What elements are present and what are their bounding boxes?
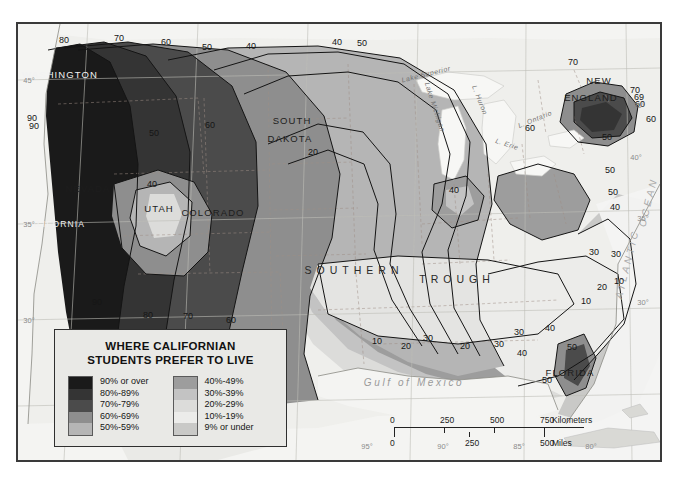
legend-label: 90% or over xyxy=(100,376,149,388)
legend-label: 10%-19% xyxy=(205,411,254,423)
scale-tick-label: 0 xyxy=(390,415,395,425)
legend-swatch xyxy=(174,400,197,412)
scale-tick-label: 500 xyxy=(490,415,504,425)
legend-label: 60%-69% xyxy=(100,411,149,423)
legend-label: 30%-39% xyxy=(205,388,254,400)
scale-unit-km: Kilometers xyxy=(552,415,592,425)
legend-labels-1: 90% or over80%-89%70%-79%60%-69%50%-59% xyxy=(100,376,149,436)
scale-tick-label: 250 xyxy=(440,415,454,425)
scale-bar: 0250500750Kilometers 0250500Miles xyxy=(394,415,584,449)
legend-swatches-2 xyxy=(173,376,198,436)
map-frame: WASHINGTONNEVADAUTAHCOLORADOCALIFORNIASO… xyxy=(16,22,662,462)
legend-swatch xyxy=(69,412,92,424)
legend-title: WHERE CALIFORNIAN STUDENTS PREFER TO LIV… xyxy=(55,339,286,367)
legend-column-1: 90% or over80%-89%70%-79%60%-69%50%-59% xyxy=(68,376,149,436)
legend-swatch xyxy=(69,377,92,389)
legend-label: 20%-29% xyxy=(205,399,254,411)
legend-swatch xyxy=(69,400,92,412)
scale-tick-label: 250 xyxy=(465,438,479,448)
legend-label: 50%-59% xyxy=(100,422,149,434)
legend-swatch xyxy=(69,423,92,435)
legend-label: 9% or under xyxy=(205,422,254,434)
scale-mi-numbers: 0250500Miles xyxy=(394,438,584,449)
legend-title-line1: WHERE CALIFORNIAN xyxy=(55,339,286,353)
legend-columns: 90% or over80%-89%70%-79%60%-69%50%-59% … xyxy=(55,376,286,436)
scale-tick-label: 0 xyxy=(390,438,395,448)
legend-label: 70%-79% xyxy=(100,399,149,411)
legend-swatch xyxy=(174,389,197,401)
scale-mi-bar xyxy=(394,432,584,436)
legend-swatch xyxy=(174,423,197,435)
legend-column-2: 40%-49%30%-39%20%-29%10%-19%9% or under xyxy=(173,376,254,436)
map-page: WASHINGTONNEVADAUTAHCOLORADOCALIFORNIASO… xyxy=(0,0,674,482)
legend-label: 40%-49% xyxy=(205,376,254,388)
legend-label: 80%-89% xyxy=(100,388,149,400)
legend-title-line2: STUDENTS PREFER TO LIVE xyxy=(55,353,286,367)
legend-swatches-1 xyxy=(68,376,93,436)
legend-swatch xyxy=(174,377,197,389)
map-legend: WHERE CALIFORNIAN STUDENTS PREFER TO LIV… xyxy=(54,329,287,447)
scale-km-numbers: 0250500750Kilometers xyxy=(394,415,584,426)
legend-swatch xyxy=(69,389,92,401)
legend-labels-2: 40%-49%30%-39%20%-29%10%-19%9% or under xyxy=(205,376,254,436)
legend-swatch xyxy=(174,412,197,424)
scale-unit-mi: Miles xyxy=(552,438,572,448)
